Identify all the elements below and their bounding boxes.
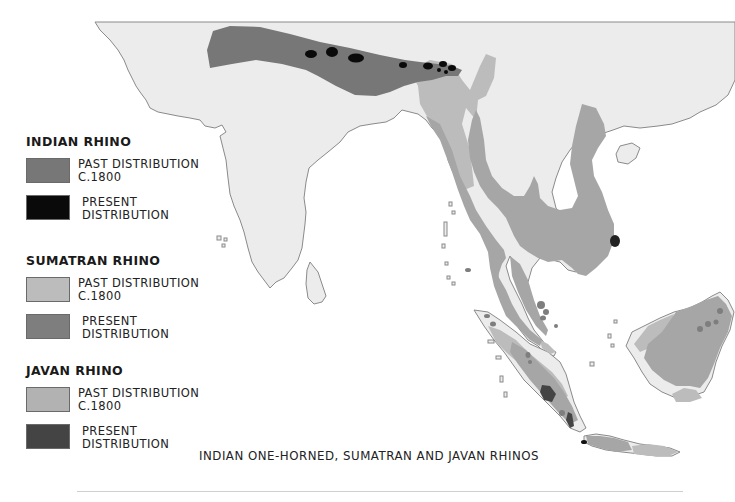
- legend-sumatran-rhino: SUMATRAN RHINO PAST DISTRIBUTION C.1800 …: [26, 253, 199, 351]
- javan-present-vietnam: [610, 235, 620, 247]
- legend-javan-rhino: JAVAN RHINO PAST DISTRIBUTION C.1800 PRE…: [26, 363, 199, 461]
- legend-item-past: PAST DISTRIBUTION C.1800: [26, 277, 199, 314]
- legend-label-date: C.1800: [78, 400, 199, 413]
- legend-item-past: PAST DISTRIBUTION C.1800: [26, 387, 199, 424]
- legend-label: DISTRIBUTION: [82, 438, 169, 451]
- sumatran-past-java-east: [632, 444, 678, 456]
- legend-label: DISTRIBUTION: [82, 328, 169, 341]
- legend-item-present: PRESENT DISTRIBUTION: [26, 424, 199, 461]
- legend-title: SUMATRAN RHINO: [26, 253, 199, 268]
- legend-title: INDIAN RHINO: [26, 134, 199, 149]
- map-caption: INDIAN ONE-HORNED, SUMATRAN AND JAVAN RH…: [199, 449, 539, 463]
- swatch-javan-present: [26, 424, 70, 449]
- legend-label: DISTRIBUTION: [82, 209, 169, 222]
- sri-lanka: [306, 262, 326, 304]
- legend-item-present: PRESENT DISTRIBUTION: [26, 195, 199, 232]
- swatch-javan-past: [26, 387, 70, 412]
- legend-item-past: PAST DISTRIBUTION C.1800: [26, 158, 199, 195]
- swatch-sumatran-present: [26, 314, 70, 339]
- legend-title: JAVAN RHINO: [26, 363, 199, 378]
- swatch-sumatran-past: [26, 277, 70, 302]
- javan-present-ujung-kulon: [581, 440, 587, 444]
- divider-line: [77, 491, 683, 492]
- past-range-java-west: [586, 436, 632, 452]
- legend-label-date: C.1800: [78, 290, 199, 303]
- legend-item-present: PRESENT DISTRIBUTION: [26, 314, 199, 351]
- legend-indian-rhino: INDIAN RHINO PAST DISTRIBUTION C.1800 PR…: [26, 134, 199, 232]
- hainan: [616, 143, 640, 164]
- swatch-indian-present: [26, 195, 70, 220]
- swatch-indian-past: [26, 158, 70, 183]
- legend-label-date: C.1800: [78, 171, 199, 184]
